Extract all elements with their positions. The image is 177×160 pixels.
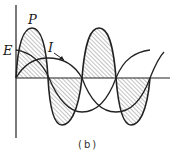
power-hatched-area (16, 28, 150, 125)
power-label: P (27, 12, 37, 27)
figure-caption: (b) (78, 139, 98, 150)
voltage-label: E (2, 43, 13, 58)
current-label: I (47, 40, 54, 55)
power-waveform-diagram: P E I (b) (0, 0, 177, 160)
